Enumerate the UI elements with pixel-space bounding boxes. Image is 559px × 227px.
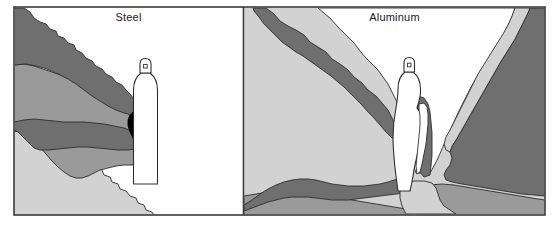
- steel-panel-title: Steel: [14, 11, 243, 23]
- aluminum-panel-zones: [244, 8, 545, 215]
- aluminum-panel-title: Aluminum: [244, 11, 545, 23]
- steel-gas-cylinder-valve-icon: [144, 64, 148, 68]
- contour-illustration-svg: [0, 0, 559, 227]
- aluminum-gas-cylinder-valve-icon: [407, 63, 411, 67]
- figure-root: Steel Aluminum: [0, 0, 559, 227]
- steel-gas-cylinder-body: [134, 73, 158, 184]
